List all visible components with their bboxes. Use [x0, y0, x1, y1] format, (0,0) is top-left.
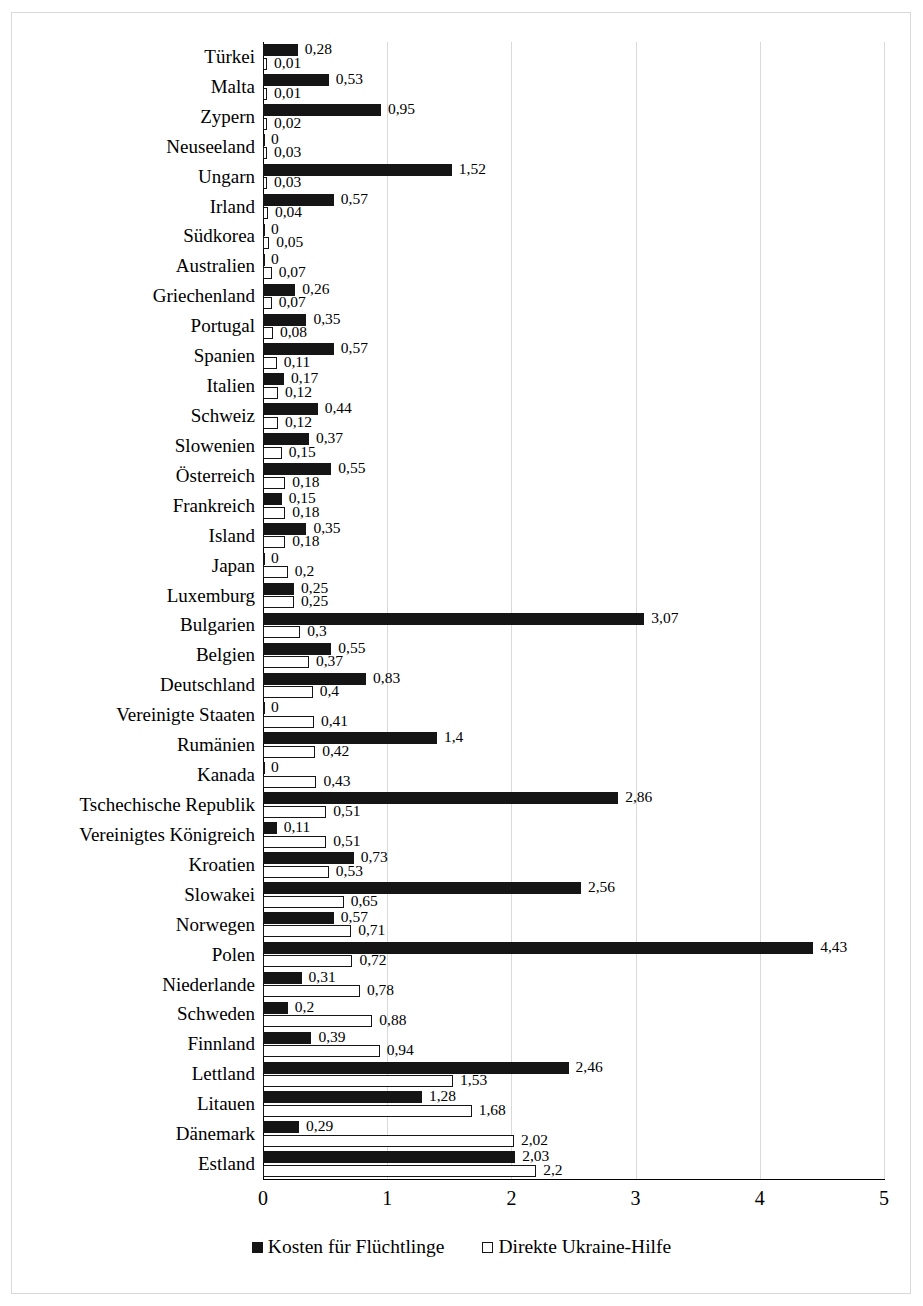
bar-value-label: 0,18 — [292, 535, 319, 547]
bar-refugee-costs — [263, 134, 265, 146]
bar-direct-aid — [263, 357, 277, 369]
bar-refugee-costs — [263, 792, 618, 804]
bar-direct-aid — [263, 507, 285, 519]
bar-value-label: 0,12 — [285, 416, 312, 428]
category-label: Vereinigtes Königreich — [0, 825, 255, 844]
bar-value-label: 0,55 — [338, 462, 365, 474]
bar-value-label: 0,18 — [292, 506, 319, 518]
bar-refugee-costs — [263, 673, 366, 685]
bar-value-label: 2,02 — [521, 1134, 548, 1146]
bar-value-label: 0,11 — [284, 356, 311, 368]
bar-direct-aid — [263, 177, 267, 189]
bar-value-label: 0,15 — [289, 446, 316, 458]
bar-refugee-costs — [263, 912, 334, 924]
bar-direct-aid — [263, 477, 285, 489]
category-label: Kanada — [0, 765, 255, 784]
bar-value-label: 0,18 — [292, 476, 319, 488]
bar-refugee-costs — [263, 1002, 288, 1014]
bar-value-label: 0,39 — [318, 1031, 345, 1043]
value-axis-tick-label: 0 — [243, 1186, 283, 1210]
category-label: Australien — [0, 256, 255, 275]
bar-value-label: 0,88 — [379, 1014, 406, 1026]
bar-value-label: 0,83 — [373, 672, 400, 684]
bar-direct-aid — [263, 686, 313, 698]
bar-value-label: 0,53 — [336, 73, 363, 85]
bar-direct-aid — [263, 58, 267, 70]
bar-refugee-costs — [263, 942, 813, 954]
bar-value-label: 0,4 — [320, 685, 339, 697]
bar-direct-aid — [263, 656, 309, 668]
category-label: Malta — [0, 77, 255, 96]
bar-value-label: 0,71 — [358, 924, 385, 936]
bar-value-label: 0,3 — [307, 625, 326, 637]
bar-value-label: 0,2 — [295, 565, 314, 577]
bar-direct-aid — [263, 1165, 536, 1177]
bar-direct-aid — [263, 806, 326, 818]
bar-value-label: 0,03 — [274, 146, 301, 158]
gridline — [760, 42, 761, 1179]
filled-square-icon — [252, 1242, 263, 1253]
category-label: Island — [0, 526, 255, 545]
bar-direct-aid — [263, 836, 326, 848]
legend-item-label: Direkte Ukraine-Hilfe — [498, 1236, 671, 1258]
hollow-square-icon — [482, 1242, 493, 1253]
category-label: Bulgarien — [0, 615, 255, 634]
legend-item-label: Kosten für Flüchtlinge — [268, 1236, 445, 1258]
bar-value-label: 0,05 — [276, 236, 303, 248]
category-label: Schweden — [0, 1004, 255, 1023]
bar-value-label: 0 — [271, 253, 279, 265]
gridline — [636, 42, 637, 1179]
category-label: Frankreich — [0, 496, 255, 515]
bar-direct-aid — [263, 1015, 372, 1027]
category-label: Belgien — [0, 645, 255, 664]
bar-value-label: 0,37 — [316, 432, 343, 444]
bar-value-label: 0,35 — [313, 313, 340, 325]
bar-value-label: 0,94 — [387, 1044, 414, 1056]
category-label: Slowenien — [0, 436, 255, 455]
bar-value-label: 0,37 — [316, 655, 343, 667]
bar-refugee-costs — [263, 493, 282, 505]
bar-value-label: 0,57 — [341, 193, 368, 205]
gridline — [387, 42, 388, 1179]
category-label: Norwegen — [0, 915, 255, 934]
bar-direct-aid — [263, 327, 273, 339]
bar-value-label: 0,01 — [274, 57, 301, 69]
bar-value-label: 0,65 — [351, 895, 378, 907]
bar-value-label: 0,07 — [279, 296, 306, 308]
category-label: Dänemark — [0, 1124, 255, 1143]
bar-refugee-costs — [263, 702, 265, 714]
category-label: Irland — [0, 197, 255, 216]
bar-refugee-costs — [263, 1121, 299, 1133]
chart-figure: TürkeiMaltaZypernNeuseelandUngarnIrlandS… — [0, 0, 923, 1306]
gridline — [884, 42, 885, 1179]
bar-value-label: 0,73 — [361, 851, 388, 863]
bar-value-label: 0,29 — [306, 1120, 333, 1132]
category-label: Polen — [0, 945, 255, 964]
bar-value-label: 0,03 — [274, 176, 301, 188]
bar-direct-aid — [263, 536, 285, 548]
bar-value-label: 0,95 — [388, 103, 415, 115]
bar-direct-aid — [263, 566, 288, 578]
bar-direct-aid — [263, 207, 268, 219]
bar-direct-aid — [263, 417, 278, 429]
value-axis-tick-label: 5 — [864, 1186, 904, 1210]
bar-direct-aid — [263, 118, 267, 130]
legend-item[interactable]: Direkte Ukraine-Hilfe — [482, 1236, 671, 1258]
value-axis-tick-label: 2 — [491, 1186, 531, 1210]
category-label: Rumänien — [0, 735, 255, 754]
bar-refugee-costs — [263, 882, 581, 894]
category-label: Finnland — [0, 1034, 255, 1053]
bar-direct-aid — [263, 267, 272, 279]
bar-value-label: 0,01 — [274, 87, 301, 99]
bar-direct-aid — [263, 88, 267, 100]
bar-value-label: 0,2 — [295, 1001, 314, 1013]
chart-legend: Kosten für FlüchtlingeDirekte Ukraine-Hi… — [0, 1236, 923, 1258]
category-label: Griechenland — [0, 286, 255, 305]
bar-value-label: 4,43 — [820, 941, 847, 953]
category-label: Österreich — [0, 466, 255, 485]
category-label: Kroatien — [0, 855, 255, 874]
bar-refugee-costs — [263, 553, 265, 565]
bar-value-label: 0,44 — [325, 402, 352, 414]
legend-item[interactable]: Kosten für Flüchtlinge — [252, 1236, 445, 1258]
bar-refugee-costs — [263, 1091, 422, 1103]
